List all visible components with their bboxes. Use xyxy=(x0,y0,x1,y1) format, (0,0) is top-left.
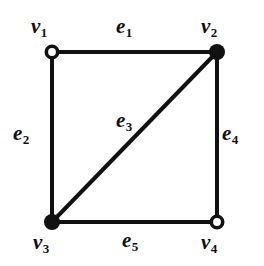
vertex-label-v4-base: v xyxy=(201,230,210,254)
vertex-label-v4-subscript: 4 xyxy=(210,241,217,256)
edge-label-e5: e5 xyxy=(122,230,138,253)
vertex-node-v4 xyxy=(211,216,222,227)
vertex-label-v2: v2 xyxy=(201,16,217,39)
edge-label-e2-subscript: 2 xyxy=(22,132,29,147)
graph-figure: v1 v2 v3 v4 e1 e2 e3 e4 e5 xyxy=(0,0,264,266)
edge-label-e5-subscript: 5 xyxy=(131,239,138,254)
edge-e3-line xyxy=(52,52,217,222)
edge-label-e2: e2 xyxy=(13,123,29,146)
vertex-label-v2-subscript: 2 xyxy=(210,25,217,40)
vertex-label-v1-subscript: 1 xyxy=(40,25,47,40)
edge-label-e1: e1 xyxy=(116,16,132,39)
edge-label-e3-subscript: 3 xyxy=(125,119,132,134)
vertex-node-v1 xyxy=(46,46,57,57)
vertex-label-v4: v4 xyxy=(201,232,217,255)
edge-label-e4-subscript: 4 xyxy=(231,132,238,147)
vertex-label-v1: v1 xyxy=(31,16,47,39)
vertex-label-v3: v3 xyxy=(33,232,49,255)
vertex-node-v3 xyxy=(44,214,60,230)
edge-label-e2-base: e xyxy=(13,121,22,145)
edge-label-e1-base: e xyxy=(116,14,125,38)
edge-label-e4: e4 xyxy=(222,123,238,146)
vertex-label-v2-base: v xyxy=(201,14,210,38)
vertex-label-v1-base: v xyxy=(31,14,40,38)
edge-lines xyxy=(52,52,217,222)
edge-label-e3-base: e xyxy=(116,108,125,132)
edge-label-e4-base: e xyxy=(222,121,231,145)
edge-label-e5-base: e xyxy=(122,228,131,252)
edge-label-e3: e3 xyxy=(116,110,132,133)
edge-label-e1-subscript: 1 xyxy=(125,25,132,40)
vertex-node-v2 xyxy=(209,44,225,60)
vertex-label-v3-base: v xyxy=(33,230,42,254)
vertex-label-v3-subscript: 3 xyxy=(42,241,49,256)
